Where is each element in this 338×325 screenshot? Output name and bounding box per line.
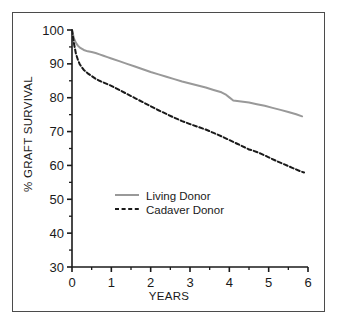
y-tick-label: 70 xyxy=(50,124,64,139)
x-tick-label: 6 xyxy=(304,275,311,290)
legend-label: Cadaver Donor xyxy=(146,204,224,216)
graft-survival-line-chart: 304050607080901000123456Living DonorCada… xyxy=(0,0,338,325)
series-line xyxy=(72,30,302,116)
y-tick-label: 60 xyxy=(50,158,64,173)
y-tick-label: 50 xyxy=(50,192,64,207)
y-tick-label: 30 xyxy=(50,260,64,275)
y-axis-title: % GRAFT SURVIVAL xyxy=(22,54,34,214)
x-tick-label: 5 xyxy=(265,275,272,290)
x-tick-label: 0 xyxy=(68,275,75,290)
x-tick-label: 3 xyxy=(186,275,193,290)
series-line xyxy=(72,30,304,173)
y-tick-label: 90 xyxy=(50,56,64,71)
x-tick-label: 2 xyxy=(147,275,154,290)
y-tick-label: 80 xyxy=(50,90,64,105)
y-tick-label: 40 xyxy=(50,226,64,241)
figure-canvas: 304050607080901000123456Living DonorCada… xyxy=(0,0,338,325)
x-axis-title: YEARS xyxy=(0,290,338,302)
y-tick-label: 100 xyxy=(42,23,64,38)
x-tick-label: 4 xyxy=(226,275,233,290)
legend-label: Living Donor xyxy=(146,190,211,202)
x-tick-label: 1 xyxy=(108,275,115,290)
